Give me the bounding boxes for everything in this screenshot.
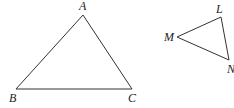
vertex-label-l: L bbox=[215, 2, 223, 16]
vertex-label-b: B bbox=[9, 91, 17, 105]
triangle-lmn: L M N bbox=[163, 2, 234, 76]
vertex-label-m: M bbox=[163, 30, 175, 44]
vertex-label-n: N bbox=[226, 62, 234, 76]
triangle-abc-shape bbox=[16, 15, 132, 89]
vertex-label-a: A bbox=[78, 0, 87, 13]
triangle-abc: A B C bbox=[9, 0, 137, 105]
geometry-figure: A B C L M N bbox=[0, 0, 234, 108]
triangle-lmn-shape bbox=[177, 17, 229, 60]
vertex-label-c: C bbox=[128, 91, 137, 105]
